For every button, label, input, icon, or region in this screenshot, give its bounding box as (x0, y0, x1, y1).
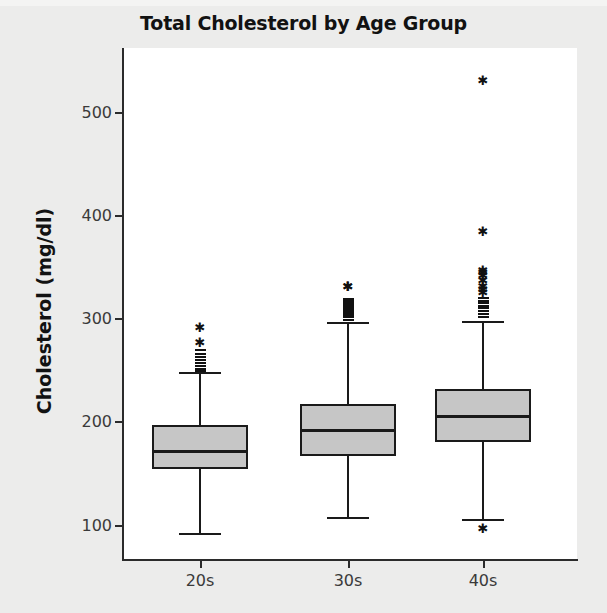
outlier-40s-308 (478, 310, 489, 312)
x-tick-mark-30s (348, 561, 350, 568)
whisker-cap-lower-30s (327, 517, 369, 519)
whisker-lower-20s (199, 469, 201, 533)
outlier-30s-304 (343, 314, 354, 316)
outlier-20s-258 (195, 362, 206, 364)
whisker-cap-lower-20s (179, 533, 221, 535)
outlier-30s-316 (343, 302, 354, 304)
outlier-20s-261 (195, 359, 206, 361)
outlier-30s-312 (343, 306, 354, 308)
x-axis-line (122, 559, 578, 561)
outlier-40s-529: ✱ (477, 78, 489, 86)
outlier-20s-250 (195, 370, 206, 372)
outlier-40s-321 (478, 297, 489, 299)
median-20s (152, 450, 248, 453)
whisker-upper-20s (199, 372, 201, 425)
outlier-40s-305 (478, 313, 489, 315)
outlier-30s-306 (343, 312, 354, 314)
outlier-30s-314 (343, 304, 354, 306)
whisker-lower-30s (347, 456, 349, 517)
outlier-20s-264 (195, 356, 206, 358)
outlier-40s-316 (478, 302, 489, 304)
x-tick-label-40s: 40s (443, 571, 523, 590)
outlier-20s-270 (195, 349, 206, 351)
outlier-30s-318 (343, 300, 354, 302)
outlier-30s-310 (343, 308, 354, 310)
y-tick-label-500: 500 (52, 103, 112, 122)
page-title: Total Cholesterol by Age Group (0, 12, 607, 34)
y-tick-mark-100 (115, 525, 122, 527)
outlier-low-40s-95: ✱ (477, 526, 489, 534)
x-tick-label-30s: 30s (308, 571, 388, 590)
box-20s (152, 425, 248, 469)
outlier-30s-308 (343, 310, 354, 312)
y-tick-label-100: 100 (52, 516, 112, 535)
y-axis-line (122, 48, 124, 561)
y-tick-label-200: 200 (52, 412, 112, 431)
outlier-30s-300 (343, 319, 354, 321)
whisker-cap-upper-30s (327, 322, 369, 324)
median-40s (435, 415, 531, 418)
x-tick-mark-40s (483, 561, 485, 568)
chart-page: Total Cholesterol by Age Group Cholester… (0, 0, 607, 613)
outlier-40s-383: ✱ (477, 229, 489, 237)
y-tick-label-400: 400 (52, 206, 112, 225)
x-tick-mark-20s (200, 561, 202, 568)
outlier-30s-330: ✱ (342, 284, 354, 292)
whisker-lower-40s (482, 442, 484, 518)
y-tick-mark-400 (115, 215, 122, 217)
outlier-40s-311 (478, 307, 489, 309)
median-30s (300, 429, 396, 432)
outlier-20s-267 (195, 353, 206, 355)
whisker-cap-upper-20s (179, 372, 221, 374)
whisker-upper-30s (347, 322, 349, 405)
outlier-30s-302 (343, 316, 354, 318)
outlier-40s-302 (478, 316, 489, 318)
y-tick-label-300: 300 (52, 309, 112, 328)
whisker-upper-40s (482, 321, 484, 389)
whisker-cap-upper-40s (462, 321, 504, 323)
x-tick-label-20s: 20s (160, 571, 240, 590)
y-tick-mark-300 (115, 318, 122, 320)
y-tick-mark-500 (115, 112, 122, 114)
outlier-20s-290: ✱ (194, 325, 206, 333)
y-tick-mark-200 (115, 421, 122, 423)
outlier-20s-255 (195, 365, 206, 367)
outlier-20s-275: ✱ (194, 340, 206, 348)
